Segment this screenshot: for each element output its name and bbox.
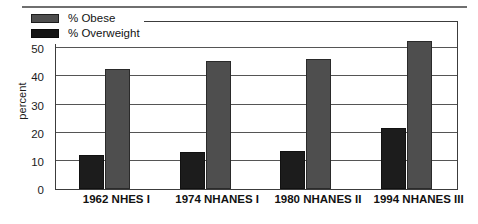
legend-item: % Obese bbox=[31, 11, 140, 25]
y-tick-label-40: 40 bbox=[31, 71, 44, 83]
x-tick-label: 1980 NHANES II bbox=[274, 193, 361, 205]
bar-obese bbox=[306, 59, 331, 189]
x-tick-label: 1994 NHANES III bbox=[374, 193, 464, 205]
legend-label: % Obese bbox=[68, 12, 115, 24]
bar-series-container bbox=[56, 22, 457, 189]
bar-obese bbox=[407, 41, 432, 189]
chart-legend: % Obese% Overweight bbox=[27, 8, 144, 44]
obesity-overweight-bar-chart: percent 0102030405060 1962 NHES I1974 NH… bbox=[0, 0, 478, 224]
bar-overweight bbox=[280, 151, 305, 189]
legend-label: % Overweight bbox=[68, 27, 140, 39]
x-tick-label: 1974 NHANES I bbox=[175, 193, 259, 205]
bar-obese bbox=[206, 61, 231, 189]
bar-group bbox=[358, 22, 459, 189]
bar-group bbox=[258, 22, 359, 189]
y-tick-label-30: 30 bbox=[31, 100, 44, 112]
bar-group bbox=[157, 22, 258, 189]
y-tick-label-50: 50 bbox=[31, 43, 44, 55]
bar-group bbox=[56, 22, 157, 189]
bar-obese bbox=[105, 69, 130, 189]
plot-area bbox=[55, 21, 458, 190]
y-tick-label-0: 0 bbox=[38, 184, 44, 196]
bar-overweight bbox=[381, 128, 406, 189]
legend-item: % Overweight bbox=[31, 26, 140, 40]
x-tick-label: 1962 NHES I bbox=[83, 193, 150, 205]
y-axis-tick-labels: 0102030405060 bbox=[0, 21, 52, 190]
legend-swatch-overweight bbox=[31, 29, 59, 38]
bar-overweight bbox=[79, 155, 104, 189]
y-tick-label-20: 20 bbox=[31, 128, 44, 140]
bar-overweight bbox=[180, 152, 205, 189]
x-axis-tick-labels: 1962 NHES I1974 NHANES I1980 NHANES II19… bbox=[55, 193, 458, 215]
legend-swatch-obese bbox=[31, 14, 59, 23]
y-tick-label-10: 10 bbox=[31, 156, 44, 168]
